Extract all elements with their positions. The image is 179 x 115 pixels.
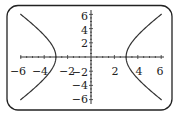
- y-label-neg6: −6: [72, 93, 88, 106]
- y-label-neg2: −2: [72, 66, 88, 79]
- hyperbola-graph: −6 −4 −2 2 4 6 6 4 2 −2 −4 −6: [0, 0, 179, 115]
- x-label-neg6: −6: [10, 65, 26, 78]
- axes: [20, 10, 164, 104]
- y-label-6: 6: [81, 10, 88, 23]
- y-label-4: 4: [81, 24, 88, 37]
- y-label-neg4: −4: [72, 79, 88, 92]
- y-axis-labels: 6 4 2 −2 −4 −6: [72, 10, 88, 106]
- y-label-2: 2: [81, 37, 88, 50]
- x-label-6: 6: [157, 65, 164, 78]
- graph-frame: [7, 6, 172, 111]
- x-label-neg4: −4: [32, 65, 48, 78]
- x-label-2: 2: [112, 65, 119, 78]
- x-label-4: 4: [136, 65, 143, 78]
